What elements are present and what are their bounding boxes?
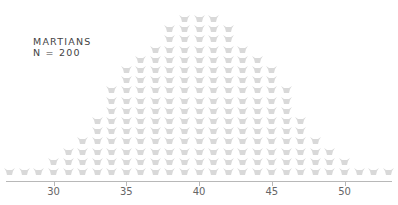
martian-head-icon bbox=[135, 49, 146, 57]
martian-head-icon bbox=[354, 161, 365, 169]
martian-head-icon bbox=[383, 161, 394, 169]
martian-head-icon bbox=[324, 141, 335, 149]
x-axis-tick-label: 30 bbox=[39, 186, 69, 197]
martian-head-icon bbox=[106, 79, 117, 87]
martian-head-icon bbox=[310, 130, 321, 138]
martian-head-icon bbox=[237, 39, 248, 47]
martian-head-icon bbox=[368, 161, 379, 169]
martian-head-icon bbox=[339, 151, 350, 159]
x-axis-tick-label: 50 bbox=[330, 186, 360, 197]
martian-head-icon bbox=[164, 18, 175, 26]
martian-head-icon bbox=[252, 49, 263, 57]
martian-head-icon bbox=[48, 151, 59, 159]
martian-head-icon bbox=[77, 130, 88, 138]
martian-head-icon bbox=[223, 18, 234, 26]
martian-head-icon bbox=[33, 161, 44, 169]
martian-head-icon bbox=[92, 110, 103, 118]
martian-head-icon bbox=[281, 79, 292, 87]
martian-head-icon bbox=[4, 161, 15, 169]
martian-head-icon bbox=[19, 161, 30, 169]
martian-head-icon bbox=[194, 8, 205, 16]
histogram-plot: 3035404550 bbox=[0, 0, 398, 205]
martian-head-icon bbox=[179, 8, 190, 16]
martian-head-icon bbox=[63, 141, 74, 149]
martian-head-icon bbox=[295, 110, 306, 118]
martian-head-icon bbox=[208, 8, 219, 16]
martian-head-icon bbox=[266, 59, 277, 67]
martian-head-icon bbox=[150, 39, 161, 47]
martian-head-icon bbox=[121, 59, 132, 67]
x-axis-tick-label: 35 bbox=[111, 186, 141, 197]
x-axis-tick-label: 45 bbox=[257, 186, 287, 197]
x-axis-tick-label: 40 bbox=[184, 186, 214, 197]
